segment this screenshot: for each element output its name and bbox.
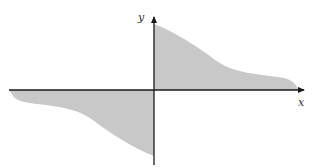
lower-left-area [10,90,154,156]
y-axis-label: y [137,11,145,24]
x-axis-label: x [298,96,305,109]
diagram-canvas: y x [0,0,320,167]
upper-right-area [154,24,298,90]
